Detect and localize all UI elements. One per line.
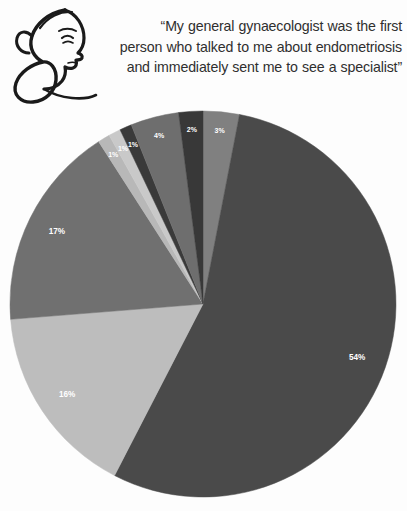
woman-profile-line-art-logo	[2, 2, 106, 106]
pie-slice-label: 2%	[187, 126, 198, 133]
quote-line-2: person who talked to me about endometrio…	[96, 37, 402, 58]
quote-line-1: “My general gynaecologist was the first	[96, 16, 402, 37]
pie-slice-label: 17%	[49, 227, 66, 236]
pie-slice-label: 3%	[215, 127, 226, 134]
pie-slice-label: 54%	[349, 353, 366, 362]
pie-chart: 3%54%16%17%1%1%1%4%2%	[9, 104, 398, 504]
chart-area: 3%54%16%17%1%1%1%4%2%	[0, 104, 407, 511]
quote-line-3: and immediately sent me to see a special…	[96, 57, 402, 78]
pie-slice-label: 4%	[154, 132, 165, 139]
testimonial-quote: “My general gynaecologist was the first …	[96, 16, 402, 78]
pie-slice-label: 16%	[59, 390, 76, 399]
pie-slices	[10, 111, 396, 497]
header: “My general gynaecologist was the first …	[0, 0, 407, 108]
pie-slice-label: 1%	[128, 141, 139, 148]
quote-chart-card: “My general gynaecologist was the first …	[0, 0, 407, 511]
